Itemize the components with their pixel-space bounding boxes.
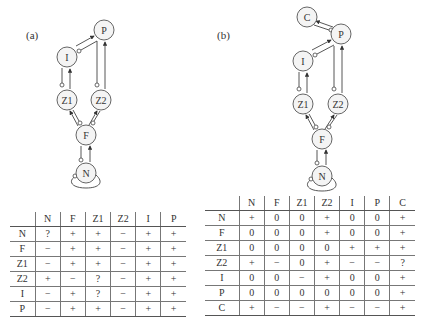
row-header: Z2 [10,272,35,287]
inhibit-end-icon [78,121,82,125]
cell: + [85,302,110,317]
node-F: F [76,125,96,145]
node-Z2: Z2 [91,90,111,110]
col-header: F [264,196,289,211]
cell: − [111,242,136,257]
cell: − [35,257,60,272]
inhibit-end-icon [77,49,81,53]
col-header: I [136,212,161,227]
cell: + [390,211,415,226]
cell: 0 [365,286,390,301]
edge-Z1-inhibits-F [309,114,315,125]
inhibit-end-icon [297,87,301,91]
cell: + [85,242,110,257]
col-header: C [390,196,415,211]
cell: 0 [365,226,390,241]
col-header: Z2 [314,196,339,211]
cell: + [60,257,85,272]
col-header: Z2 [111,212,136,227]
cell: ? [35,227,60,242]
table-row: Z1 0 0 0 0 + + + [205,241,415,256]
cell: + [85,257,110,272]
cell: + [239,301,264,316]
cell: + [365,241,390,256]
edge-F-to-Z1 [306,115,314,130]
cell: − [111,287,136,302]
cell: + [239,211,264,226]
cell: + [136,242,161,257]
cell: + [314,226,339,241]
cell: ? [85,287,110,302]
cell: + [136,227,161,242]
cell: − [264,256,289,271]
row-header: Z2 [205,256,239,271]
inhibit-end-icon [314,125,318,129]
cell: 0 [340,226,365,241]
cell: + [161,242,186,257]
cell: + [35,272,60,287]
svg-text:Z1: Z1 [61,95,72,106]
svg-text:Z1: Z1 [297,99,308,110]
svg-text:P: P [101,25,107,36]
cell: 0 [340,211,365,226]
cell: + [136,272,161,287]
cell: + [314,211,339,226]
cell: 0 [365,211,390,226]
svg-text:F: F [319,134,325,145]
cell: ? [390,256,415,271]
cell: + [161,257,186,272]
inhibit-end-icon [95,83,99,87]
cell: + [390,271,415,286]
cell: − [264,301,289,316]
cell: − [289,301,314,316]
cell: + [60,227,85,242]
cell: 0 [239,226,264,241]
cell: + [136,257,161,272]
cell: + [340,241,365,256]
table-a: N F Z1 Z2 I P N ? + + − + + F − + + − + … [10,212,186,317]
node-Z1: Z1 [57,90,77,110]
cell: 0 [365,271,390,286]
cell: 0 [289,256,314,271]
inhibit-end-icon [91,121,95,125]
cell: 0 [264,286,289,301]
cell: + [390,301,415,316]
cell: − [35,302,60,317]
cell: − [111,227,136,242]
svg-text:Z2: Z2 [95,95,106,106]
col-header: F [60,212,85,227]
row-header: F [205,226,239,241]
cell: + [314,271,339,286]
table-row: Z1 − + + − + + [10,257,186,272]
col-header: N [239,196,264,211]
row-header: I [10,287,35,302]
cell: + [60,287,85,302]
node-N: N [312,166,332,186]
cell: 0 [289,286,314,301]
table-row: N ? + + − + + [10,227,186,242]
table-corner [205,196,239,211]
cell: 0 [239,271,264,286]
cell: + [161,227,186,242]
row-header: F [10,242,35,257]
table-row: I − + ? − + + [10,287,186,302]
table-row: F 0 0 0 + 0 0 + [205,226,415,241]
cell: + [85,227,110,242]
cell: 0 [264,226,289,241]
cell: − [111,272,136,287]
svg-text:C: C [304,12,311,23]
col-header: N [35,212,60,227]
inhibit-end-icon [327,125,331,129]
cell: + [161,272,186,287]
cell: − [111,302,136,317]
col-header: I [340,196,365,211]
table-row: P − + + − + + [10,302,186,317]
col-header: P [365,196,390,211]
row-header: N [205,211,239,226]
svg-text:N: N [318,171,325,182]
table-row: F − + + − + + [10,242,186,257]
row-header: P [10,302,35,317]
edge-F-to-Z1 [70,111,78,126]
row-header: Z1 [205,241,239,256]
inhibit-end-icon [332,87,336,91]
